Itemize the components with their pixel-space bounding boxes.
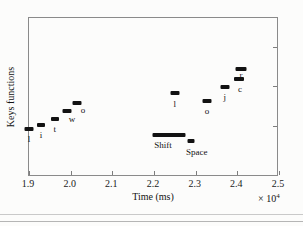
x-axis-tick-label: 1.9 (22, 179, 35, 189)
x-axis-tick (112, 171, 113, 175)
x-axis-exponent-power: 4 (276, 192, 280, 200)
data-point-marker (220, 85, 229, 89)
data-point-label: t (54, 125, 57, 134)
x-axis-tick-label: 2.0 (63, 179, 76, 189)
x-axis-tick (279, 171, 280, 175)
x-axis-title: Time (ms) (28, 192, 278, 202)
x-axis-tick-label: 2.4 (230, 179, 243, 189)
data-point-label: r (240, 71, 243, 80)
y-axis-tick-right (273, 126, 277, 127)
x-axis-tick (237, 171, 238, 175)
data-point-label: o (81, 106, 86, 115)
y-axis-tick-right (273, 47, 277, 48)
data-point-marker (170, 91, 179, 95)
figure-canvas: Keys functions litwoShiftlSpaceojcr Time… (0, 0, 303, 226)
y-axis-title: Keys functions (4, 17, 18, 176)
plot-area: litwoShiftlSpaceojcr (29, 18, 277, 175)
y-axis-tick-right (273, 86, 277, 87)
data-point-label: l (28, 135, 31, 144)
data-point-label: i (40, 131, 43, 140)
x-axis-tick (196, 171, 197, 175)
x-axis-tick-label: 2.1 (105, 179, 118, 189)
data-point-marker (187, 139, 194, 143)
x-axis-tick-label: 2.5 (272, 179, 285, 189)
data-point-label: o (205, 107, 210, 116)
data-point-label: Shift (154, 141, 172, 150)
page-rule-upper (0, 214, 303, 215)
x-axis-tick-label: 2.3 (188, 179, 201, 189)
page-rule-lower (0, 221, 303, 222)
data-point-label: c (238, 85, 242, 94)
x-axis-tick (71, 171, 72, 175)
data-point-label: l (174, 100, 177, 109)
data-point-marker (153, 133, 186, 137)
data-point-label: w (69, 115, 76, 124)
x-axis-tick (29, 171, 30, 175)
x-axis-tick (154, 171, 155, 175)
data-point-label: j (224, 93, 227, 102)
data-point-marker (25, 127, 34, 131)
x-axis-exponent: × 104 (258, 193, 280, 204)
plot-frame: litwoShiftlSpaceojcr (28, 17, 278, 176)
y-axis-title-text: Keys functions (6, 66, 16, 126)
x-axis-exponent-base: × 10 (258, 193, 276, 204)
data-point-marker (37, 123, 45, 127)
data-point-marker (202, 99, 211, 103)
data-point-marker (51, 117, 59, 121)
data-point-label: Space (186, 148, 208, 157)
data-point-marker (62, 109, 71, 113)
x-axis-tick-label: 2.2 (147, 179, 160, 189)
